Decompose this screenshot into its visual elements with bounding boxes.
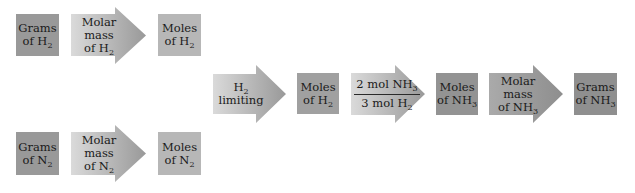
ratio-numerator: 2 mol NH3 (356, 78, 417, 91)
fraction-bar (354, 94, 420, 95)
moles-nh3-line2: of NH3 (437, 94, 477, 107)
moles-h2-mid-line2: of H2 (303, 94, 333, 107)
molar-mass-nh3-line1: Molar (501, 75, 536, 88)
molar-mass-n2-arrow: Molar mass of N2 (71, 125, 146, 182)
molar-mass-h2-line1: Molar (82, 16, 117, 29)
moles-nh3-box: Moles of NH3 (436, 73, 478, 115)
grams-n2-box: Grams of N2 (16, 132, 59, 175)
molar-mass-n2-line3: of N2 (84, 160, 114, 173)
grams-nh3-box: Grams of NH3 (574, 73, 617, 115)
molar-mass-nh3-arrow: Molar mass of NH3 (489, 65, 563, 123)
molar-mass-nh3-line3: of NH3 (498, 101, 538, 114)
molar-mass-h2-arrow: Molar mass of H2 (71, 7, 146, 64)
ratio-denominator: 3 mol H2 (361, 97, 412, 110)
moles-h2-top-line2: of H2 (165, 35, 195, 48)
grams-nh3-line2: of NH3 (575, 94, 615, 107)
h2-limiting-arrow: H2 limiting (213, 65, 286, 123)
molar-mass-h2-line3: of H2 (84, 42, 114, 55)
grams-n2-line2: of N2 (23, 154, 53, 167)
moles-h2-box-top: Moles of H2 (158, 14, 201, 56)
mole-ratio-arrow: 2 mol NH3 3 mol H2 (351, 65, 425, 123)
grams-h2-box: Grams of H2 (16, 14, 59, 56)
grams-h2-line2: of H2 (23, 35, 53, 48)
moles-n2-line2: of N2 (165, 154, 195, 167)
h2-limiting-line2: limiting (218, 94, 263, 107)
moles-n2-box: Moles of N2 (158, 132, 201, 175)
moles-h2-box-middle: Moles of H2 (297, 73, 339, 114)
